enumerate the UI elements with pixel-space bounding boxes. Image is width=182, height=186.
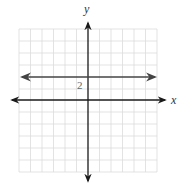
intercept-label: 2 xyxy=(77,79,83,91)
x-axis-label: x xyxy=(170,93,177,107)
coordinate-plane: y x 2 xyxy=(0,0,182,186)
y-axis-label: y xyxy=(83,2,90,16)
